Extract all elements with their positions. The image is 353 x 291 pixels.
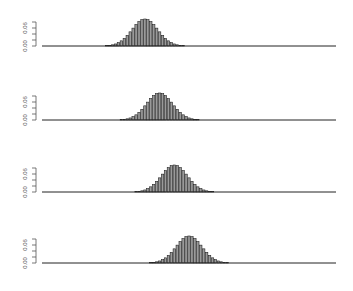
chart-panel-4: 0.000.06 — [22, 236, 336, 269]
bar — [191, 237, 193, 263]
bar — [135, 25, 137, 46]
bar — [173, 165, 175, 192]
bar — [150, 22, 152, 46]
bar — [203, 249, 205, 263]
y-axis: 0.000.06 — [22, 22, 36, 52]
bar — [135, 115, 137, 120]
bar — [173, 249, 175, 263]
bar — [200, 245, 202, 263]
bar — [120, 41, 122, 46]
bar — [158, 32, 160, 46]
y-tick-label: 0.00 — [22, 186, 28, 198]
bar — [170, 102, 172, 120]
bar — [150, 99, 152, 120]
bar — [205, 252, 207, 263]
bars — [135, 165, 214, 192]
bar — [158, 178, 160, 192]
bars — [150, 236, 229, 263]
bar — [182, 239, 184, 263]
bar — [144, 19, 146, 46]
bar — [138, 112, 140, 120]
bar — [138, 22, 140, 46]
bar — [179, 112, 181, 120]
y-axis: 0.000.06 — [22, 96, 36, 126]
bar — [194, 184, 196, 192]
bar — [176, 166, 178, 192]
bar — [129, 32, 131, 46]
bar — [179, 168, 181, 192]
bar — [191, 181, 193, 192]
bar — [188, 178, 190, 192]
y-tick-label: 0.06 — [22, 22, 28, 34]
bar — [155, 28, 157, 46]
bar — [164, 171, 166, 192]
bar — [147, 20, 149, 46]
bar — [155, 181, 157, 192]
chart-panel-3: 0.000.06 — [22, 165, 336, 198]
bar — [176, 245, 178, 263]
y-tick-label: 0.00 — [22, 40, 28, 52]
bar — [176, 109, 178, 120]
bar — [197, 242, 199, 263]
bar — [182, 115, 184, 120]
bar — [164, 96, 166, 120]
bar — [155, 94, 157, 120]
bar — [185, 237, 187, 263]
bar — [150, 187, 152, 192]
stacked-distribution-charts: 0.000.060.000.060.000.060.000.06 — [0, 0, 353, 291]
bar — [179, 242, 181, 263]
bar — [185, 174, 187, 192]
bar — [167, 255, 169, 263]
bar — [188, 236, 190, 263]
bar — [123, 38, 125, 46]
bar — [167, 99, 169, 120]
bar — [153, 96, 155, 120]
bar — [170, 166, 172, 192]
bar — [161, 35, 163, 46]
y-tick-label: 0.06 — [22, 239, 28, 251]
y-tick-label: 0.06 — [22, 96, 28, 108]
bar — [161, 94, 163, 120]
bar — [153, 184, 155, 192]
bar — [147, 102, 149, 120]
y-tick-label: 0.06 — [22, 168, 28, 180]
chart-panel-1: 0.000.06 — [22, 19, 336, 52]
y-axis: 0.000.06 — [22, 239, 36, 269]
y-tick-label: 0.00 — [22, 114, 28, 126]
bar — [170, 252, 172, 263]
bar — [211, 258, 213, 263]
bar — [132, 28, 134, 46]
bar — [144, 106, 146, 120]
bars — [105, 19, 184, 46]
bar — [158, 93, 160, 120]
bar — [167, 41, 169, 46]
chart-panel-2: 0.000.06 — [22, 93, 336, 126]
bar — [164, 258, 166, 263]
bar — [141, 20, 143, 46]
bar — [182, 171, 184, 192]
bar — [153, 25, 155, 46]
bar — [161, 174, 163, 192]
bar — [164, 38, 166, 46]
bar — [208, 255, 210, 263]
bar — [126, 35, 128, 46]
bar — [197, 187, 199, 192]
y-tick-label: 0.00 — [22, 257, 28, 269]
bar — [141, 109, 143, 120]
chart-canvas: 0.000.060.000.060.000.060.000.06 — [0, 0, 353, 291]
y-axis: 0.000.06 — [22, 168, 36, 198]
bar — [173, 106, 175, 120]
bar — [167, 168, 169, 192]
bar — [194, 239, 196, 263]
bars — [120, 93, 199, 120]
